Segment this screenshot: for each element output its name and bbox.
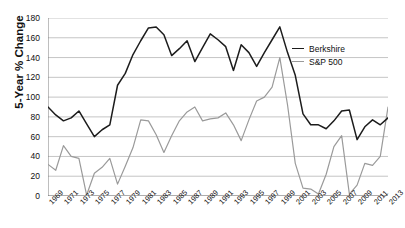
y-tick-label: 140: [0, 53, 40, 63]
y-tick-label: 60: [0, 132, 40, 142]
legend-swatch: [292, 48, 304, 49]
y-tick-label: 100: [0, 92, 40, 102]
x-tick-label: 2013: [387, 188, 405, 206]
y-tick-label: 20: [0, 171, 40, 181]
y-tick-label: 180: [0, 13, 40, 23]
legend-swatch: [292, 61, 304, 62]
legend-item: S&P 500: [292, 55, 345, 68]
legend-label: S&P 500: [309, 57, 342, 67]
y-tick-label: 40: [0, 151, 40, 161]
series-line-s-p-500: [48, 58, 388, 195]
y-tick-label: 0: [0, 191, 40, 201]
y-tick-label: 160: [0, 33, 40, 43]
y-tick-label: 80: [0, 112, 40, 122]
y-axis-tick-labels: 020406080100120140160180: [0, 18, 44, 196]
x-axis-tick-labels: 1969197119731975197719791981198319851987…: [48, 198, 396, 228]
chart-legend: BerkshireS&P 500: [292, 42, 345, 68]
y-tick-label: 120: [0, 72, 40, 82]
legend-item: Berkshire: [292, 42, 345, 55]
legend-label: Berkshire: [309, 44, 345, 54]
